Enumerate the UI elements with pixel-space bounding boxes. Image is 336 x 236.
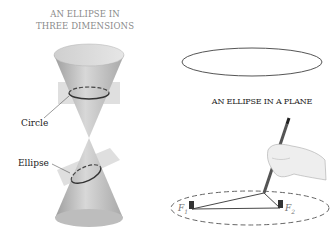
focus-pin-2 [278, 200, 283, 208]
plane-title: AN ELLIPSE IN A PLANE [192, 97, 332, 106]
focus-2-label: F2 [285, 203, 295, 215]
circle-label: Circle [21, 118, 48, 128]
focus-pin-1 [189, 201, 194, 209]
plane-ellipse [182, 48, 322, 76]
string-triangle [192, 193, 280, 209]
focus-1-label: F1 [178, 203, 188, 215]
hand [267, 144, 326, 180]
circle-leader [44, 96, 69, 118]
ellipse-label: Ellipse [18, 158, 49, 168]
figure-canvas [0, 0, 336, 236]
